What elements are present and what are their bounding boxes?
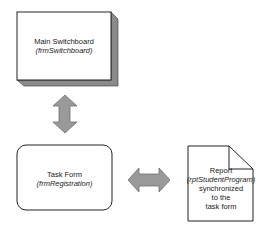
horizontal-double-arrow (128, 168, 170, 192)
vertical-double-arrow (53, 95, 77, 133)
report-title: Report (183, 166, 259, 175)
task-form-object-name: (frmRegistration) (17, 179, 112, 188)
switchboard-object-name: (frmSwitchboard) (17, 46, 111, 55)
report-note-line-3: task form (183, 202, 259, 211)
report-note-line-1: synchronized (183, 184, 259, 193)
report-label: Report (rptStudentProgram) synchronized … (183, 166, 259, 211)
report-object-name: (rptStudentProgram) (183, 175, 259, 184)
report-note-line-2: to the (183, 193, 259, 202)
switchboard-label: Main Switchboard (frmSwitchboard) (17, 37, 111, 55)
task-form-label: Task Form (frmRegistration) (17, 170, 112, 188)
task-form-title: Task Form (17, 170, 112, 179)
switchboard-title: Main Switchboard (17, 37, 111, 46)
